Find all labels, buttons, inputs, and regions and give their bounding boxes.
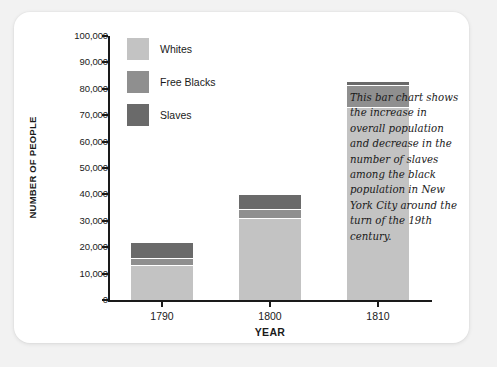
legend-item-whites[interactable]: Whites: [127, 38, 215, 60]
bar-segment-slaves[interactable]: [347, 81, 409, 85]
chart-annotation: This bar chart shows the increase in ove…: [350, 90, 462, 244]
bar-segment-free-blacks[interactable]: [239, 209, 301, 218]
chart-legend: WhitesFree BlacksSlaves: [127, 38, 215, 137]
bar-segment-whites[interactable]: [131, 265, 193, 300]
legend-swatch-icon: [127, 71, 149, 93]
bar-group-1800[interactable]: [239, 194, 301, 300]
bar-segment-slaves[interactable]: [239, 194, 301, 209]
y-tick-label: 40,000: [42, 188, 108, 199]
y-tick-label: 90,000: [42, 56, 108, 67]
bar-group-1790[interactable]: [131, 242, 193, 300]
legend-label: Free Blacks: [160, 76, 215, 88]
x-tick-label: 1790: [127, 310, 197, 322]
y-tick-label: 0: [42, 294, 108, 305]
y-axis-title: NUMBER OF PEOPLE: [27, 88, 38, 248]
legend-swatch-icon: [127, 38, 149, 60]
legend-swatch-icon: [127, 104, 149, 126]
legend-label: Slaves: [160, 109, 192, 121]
x-tick-label: 1800: [235, 310, 305, 322]
x-axis-title: YEAR: [108, 326, 432, 338]
y-tick-label: 70,000: [42, 109, 108, 120]
x-tick-mark: [377, 302, 379, 307]
x-tick-mark: [269, 302, 271, 307]
legend-item-slaves[interactable]: Slaves: [127, 104, 215, 126]
legend-item-free-blacks[interactable]: Free Blacks: [127, 71, 215, 93]
x-tick-label: 1810: [343, 310, 413, 322]
x-tick-mark: [161, 302, 163, 307]
y-tick-label: 30,000: [42, 215, 108, 226]
y-tick-label: 50,000: [42, 162, 108, 173]
bar-segment-free-blacks[interactable]: [131, 258, 193, 265]
legend-label: Whites: [160, 43, 192, 55]
y-tick-label: 10,000: [42, 268, 108, 279]
bar-segment-slaves[interactable]: [131, 242, 193, 258]
y-tick-label: 20,000: [42, 241, 108, 252]
y-axis-line: [108, 36, 110, 301]
chart-card: 010,00020,00030,00040,00050,00060,00070,…: [14, 12, 469, 343]
plot-area: 010,00020,00030,00040,00050,00060,00070,…: [14, 12, 469, 343]
y-tick-label: 60,000: [42, 136, 108, 147]
y-tick-label: 100,000: [42, 30, 108, 41]
y-tick-label: 80,000: [42, 83, 108, 94]
bar-segment-whites[interactable]: [239, 218, 301, 300]
